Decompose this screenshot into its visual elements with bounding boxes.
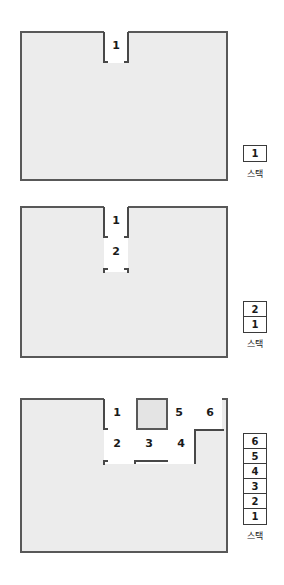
- notch-wall-left-2: [103, 207, 105, 238]
- stack-2: 2 1: [243, 301, 267, 333]
- notch-wall-right-2: [127, 207, 129, 238]
- stack-3: 6 5 4 3 2 1: [243, 433, 267, 525]
- cell-label-3-5: 5: [172, 407, 186, 418]
- stack-cell: 1: [244, 146, 266, 161]
- stack-cell: 3: [244, 479, 266, 494]
- cell-label-3-6: 6: [203, 407, 217, 418]
- corridor-bottom-wall-3: [134, 460, 168, 462]
- figure-step-2: 1 2 2 1 스택: [0, 195, 284, 360]
- stack-caption-1: 스택: [238, 167, 272, 180]
- stack-caption-2: 스택: [238, 337, 272, 350]
- cell-label-2-2: 2: [109, 246, 123, 257]
- cell-label-3-2: 2: [110, 438, 124, 449]
- stack-cell: 6: [244, 434, 266, 449]
- notch-mid-foot-right-2: [124, 236, 129, 238]
- interior-island-3: [136, 398, 168, 430]
- figure-step-1: 1 1 스택: [0, 0, 284, 195]
- notch-bottom-tick-left-2: [103, 268, 105, 273]
- notch-foot-left-1: [103, 61, 108, 63]
- corridor-bottom-left-foot-3: [103, 460, 108, 462]
- notch-mid-foot-left-2: [103, 236, 108, 238]
- stack-cell: 5: [244, 449, 266, 464]
- stack-cell: 4: [244, 464, 266, 479]
- cell-label-3-4: 4: [174, 438, 188, 449]
- cell-label-3-3: 3: [142, 438, 156, 449]
- notch-wall-left-1: [103, 32, 105, 63]
- corridor-bottom-wall-tick-left-3: [134, 460, 136, 464]
- corridor-wall-right-vertical-3: [194, 430, 196, 464]
- cell-label-3-1: 1: [110, 407, 124, 418]
- stack-caption-3: 스택: [238, 529, 272, 542]
- corridor-wall-left-foot-3: [103, 428, 108, 430]
- cell-label-2-1: 1: [109, 215, 123, 226]
- notch-wall-right-1: [127, 32, 129, 63]
- corridor-wall-right-top-3: [194, 429, 224, 431]
- corridor-wall-left-3: [103, 399, 105, 430]
- notch-foot-right-1: [124, 61, 129, 63]
- stack-cell: 1: [244, 317, 266, 332]
- stack-1: 1: [243, 145, 267, 162]
- cell-label-1-1: 1: [109, 40, 123, 51]
- stack-cell: 1: [244, 509, 266, 524]
- notch-bottom-tick-right-2: [127, 268, 129, 273]
- stack-cell: 2: [244, 494, 266, 509]
- figure-step-3: 1 5 6 2 3 4 6 5 4 3 2 1 스택: [0, 360, 284, 585]
- stack-cell: 2: [244, 302, 266, 317]
